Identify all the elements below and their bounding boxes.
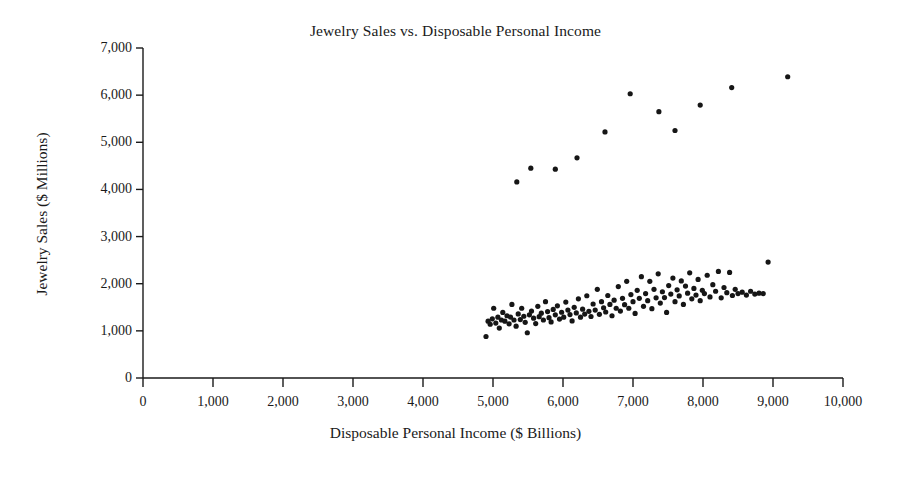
y-axis-title: Jewelry Sales ($ Millions) — [33, 64, 51, 364]
y-axis-tick-label: 2,000 — [40, 276, 132, 292]
data-point — [707, 294, 712, 299]
data-point — [528, 166, 533, 171]
data-point — [551, 307, 556, 312]
data-point — [511, 317, 516, 322]
axes — [143, 48, 843, 378]
data-point — [616, 284, 621, 289]
data-point — [705, 273, 710, 278]
x-axis-tick-label: 1,000 — [197, 394, 229, 410]
data-point — [639, 274, 644, 279]
data-point — [483, 334, 488, 339]
data-point — [656, 109, 661, 114]
data-point — [523, 320, 528, 325]
data-point — [535, 304, 540, 309]
x-axis-tick-label: 5,000 — [477, 394, 509, 410]
data-point — [620, 296, 625, 301]
data-point — [490, 316, 495, 321]
data-point — [580, 307, 585, 312]
data-point — [563, 300, 568, 305]
data-point — [493, 320, 498, 325]
data-point — [491, 306, 496, 311]
data-point — [693, 292, 698, 297]
data-point — [689, 296, 694, 301]
y-axis-tick-label: 5,000 — [40, 134, 132, 150]
x-axis-tick-label: 3,000 — [337, 394, 369, 410]
axis-ticks — [136, 48, 843, 387]
data-point — [609, 313, 614, 318]
data-point — [664, 310, 669, 315]
data-point — [509, 302, 514, 307]
data-point — [710, 282, 715, 287]
data-point — [612, 298, 617, 303]
data-points — [483, 74, 790, 339]
data-point — [570, 318, 575, 323]
y-axis-tick-label: 1,000 — [40, 323, 132, 339]
data-point — [721, 285, 726, 290]
data-point — [591, 301, 596, 306]
data-point — [588, 314, 593, 319]
data-point — [698, 102, 703, 107]
data-point — [584, 293, 589, 298]
data-point — [744, 292, 749, 297]
data-point — [574, 155, 579, 160]
data-point — [691, 286, 696, 291]
x-axis-tick-label: 0 — [140, 394, 147, 410]
data-point — [761, 291, 766, 296]
data-point — [586, 309, 591, 314]
data-point — [565, 308, 570, 313]
data-point — [603, 309, 608, 314]
data-point — [597, 312, 602, 317]
series-0 — [483, 259, 770, 339]
data-point — [514, 324, 519, 329]
data-point — [500, 310, 505, 315]
data-point — [553, 167, 558, 172]
data-point — [607, 302, 612, 307]
data-point — [628, 292, 633, 297]
y-axis-tick-label: 7,000 — [40, 40, 132, 56]
data-point — [626, 306, 631, 311]
data-point — [702, 291, 707, 296]
data-point — [687, 270, 692, 275]
data-point — [672, 128, 677, 133]
x-axis-tick-label: 6,000 — [547, 394, 579, 410]
data-point — [595, 287, 600, 292]
data-point — [724, 290, 729, 295]
data-point — [567, 312, 572, 317]
data-point — [529, 308, 534, 313]
y-axis-tick-label: 0 — [40, 370, 132, 386]
data-point — [643, 291, 648, 296]
data-point — [622, 302, 627, 307]
data-point — [651, 287, 656, 292]
data-point — [670, 275, 675, 280]
data-point — [628, 91, 633, 96]
data-point — [633, 311, 638, 316]
data-point — [658, 300, 663, 305]
data-point — [656, 271, 661, 276]
data-point — [549, 319, 554, 324]
data-point — [641, 304, 646, 309]
x-axis-title: Disposable Personal Income ($ Billions) — [0, 424, 911, 442]
data-point — [716, 269, 721, 274]
data-point — [660, 289, 665, 294]
y-axis-tick-label: 6,000 — [40, 87, 132, 103]
x-axis-tick-label: 10,000 — [824, 394, 863, 410]
data-point — [618, 308, 623, 313]
data-point — [630, 299, 635, 304]
data-point — [545, 309, 550, 314]
x-axis-tick-label: 2,000 — [267, 394, 299, 410]
data-point — [647, 279, 652, 284]
data-point — [696, 277, 701, 282]
data-point — [698, 298, 703, 303]
x-axis-tick-label: 7,000 — [617, 394, 649, 410]
data-point — [519, 306, 524, 311]
data-point — [541, 317, 546, 322]
data-point — [605, 293, 610, 298]
data-point — [516, 311, 521, 316]
data-point — [654, 295, 659, 300]
data-point — [572, 305, 577, 310]
data-point — [602, 129, 607, 134]
data-point — [578, 315, 583, 320]
series-1 — [514, 74, 790, 184]
data-point — [766, 259, 771, 264]
data-point — [719, 295, 724, 300]
